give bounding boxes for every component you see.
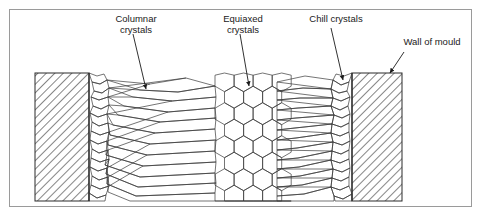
equiaxed-grain (215, 136, 234, 158)
left-mould-wall (35, 73, 89, 201)
labels: Columnar crystals Equiaxed crystals Chil… (115, 13, 460, 47)
equiaxed-grain (253, 169, 272, 191)
right-mould-wall (352, 73, 402, 201)
equiaxed-grain (244, 86, 263, 108)
equiaxed-grain (253, 103, 272, 125)
equiaxed-grain (263, 185, 282, 201)
equiaxed-grain (244, 119, 263, 141)
right-chill-zone (331, 73, 352, 201)
equiaxed-grain (272, 169, 291, 191)
equiaxed-crystals-label-line2: crystals (227, 24, 259, 35)
equiaxed-zone (215, 73, 291, 201)
equiaxed-grain (234, 103, 253, 125)
columnar-crystals-label-line2: crystals (120, 24, 152, 35)
left-chill-zone (89, 73, 109, 201)
equiaxed-grain (234, 136, 253, 158)
equiaxed-grain (225, 119, 244, 141)
wall-leader-arrow (390, 52, 404, 73)
columnar-leader-arrow (133, 34, 146, 89)
chill-crystals-label: Chill crystals (309, 13, 363, 24)
equiaxed-grain (225, 185, 244, 201)
equiaxed-grain (263, 86, 282, 108)
equiaxed-grain (263, 152, 282, 174)
right-columnar-zone (277, 76, 334, 201)
equiaxed-grain (234, 169, 253, 191)
equiaxed-grain (244, 185, 263, 201)
equiaxed-grain (215, 169, 234, 191)
equiaxed-grain (215, 73, 234, 92)
wall-of-mould-label: Wall of mould (403, 36, 460, 47)
diagram-svg: Columnar crystals Equiaxed crystals Chil… (0, 0, 485, 222)
equiaxed-grain (272, 103, 291, 125)
equiaxed-leader-arrow (240, 34, 249, 86)
equiaxed-grain (234, 73, 253, 92)
equiaxed-grain (225, 86, 244, 108)
equiaxed-grain (225, 152, 244, 174)
equiaxed-grain (253, 136, 272, 158)
figure-root: Columnar crystals Equiaxed crystals Chil… (0, 0, 485, 222)
equiaxed-grain (253, 73, 272, 92)
columnar-crystals-label-line1: Columnar (115, 13, 156, 24)
equiaxed-grain (244, 152, 263, 174)
left-columnar-zone (105, 78, 216, 201)
equiaxed-grain (215, 103, 234, 125)
equiaxed-crystals-label-line1: Equiaxed (223, 13, 263, 24)
chill-leader-arrow (331, 28, 343, 80)
